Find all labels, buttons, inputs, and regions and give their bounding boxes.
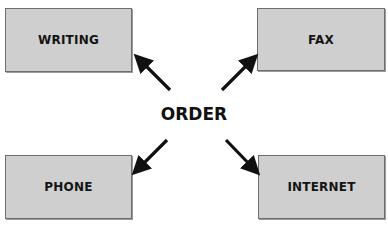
- arrow-to-internet-icon: [226, 140, 254, 169]
- arrow-to-fax-icon: [222, 60, 252, 90]
- arrow-to-phone-icon: [138, 140, 167, 169]
- arrows-layer: [0, 0, 388, 225]
- arrow-to-writing-icon: [140, 60, 170, 90]
